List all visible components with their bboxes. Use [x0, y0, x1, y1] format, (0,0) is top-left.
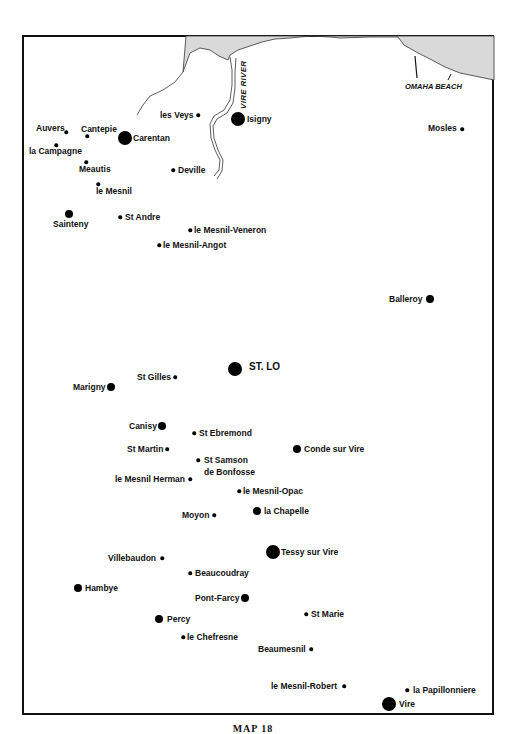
town-label-marigny: Marigny [73, 382, 106, 392]
town-label-st-lo: ST. LO [249, 362, 280, 372]
town-marker-mosles [460, 127, 464, 131]
town-label-de-bonfosse: de Bonfosse [204, 467, 255, 477]
town-label-cantepie: Cantepie [81, 124, 117, 134]
town-marker-balleroy [426, 295, 434, 303]
town-label-le-mesnil-robert: le Mesnil-Robert [271, 681, 337, 691]
town-marker-le-mesnil-herman [188, 477, 192, 481]
sea-area [183, 36, 494, 80]
town-marker-st-gilles [173, 375, 177, 379]
beach-label: OMAHA BEACH [405, 82, 462, 91]
town-marker-villebaudon [160, 556, 164, 560]
town-label-vire: Vire [399, 699, 415, 709]
town-label-st-samson: St Samson [204, 455, 248, 465]
town-label-le-chefresne: le Chefresne [187, 632, 238, 642]
town-label-carentan: Carentan [133, 133, 170, 143]
river-label: VIRE RIVER [239, 61, 248, 109]
town-marker-isigny [231, 112, 245, 126]
town-label-meautis: Meautis [79, 164, 111, 174]
town-marker-st-martin [165, 447, 169, 451]
town-marker-hambye [74, 584, 82, 592]
town-marker-le-mesnil-veneron [188, 228, 192, 232]
town-marker-marigny [107, 383, 115, 391]
town-marker-pont-farcy [241, 594, 249, 602]
omaha-pointer-2 [448, 74, 451, 80]
town-marker-la-chapelle [253, 507, 261, 515]
town-label-tessy-sur-vire: Tessy sur Vire [281, 547, 338, 557]
town-marker-les-veys [196, 113, 200, 117]
town-marker-carentan [118, 131, 132, 145]
town-label-moyon: Moyon [182, 510, 209, 520]
town-marker-tessy-sur-vire [266, 545, 280, 559]
town-label-beaumesnil: Beaumesnil [258, 644, 306, 654]
town-label-beaucoudray: Beaucoudray [195, 568, 249, 578]
town-marker-le-chefresne [181, 635, 185, 639]
town-label-canisy: Canisy [129, 421, 157, 431]
town-label-le-mesnil-herman: le Mesnil Herman [115, 474, 185, 484]
town-marker-st-ebremond [192, 431, 196, 435]
town-label-la-papillonniere: la Papillonniere [413, 685, 476, 695]
town-label-deville: Deville [178, 165, 205, 175]
town-marker-le-mesnil-robert [342, 684, 346, 688]
coastline-west [137, 72, 183, 115]
town-marker-vire [382, 697, 396, 711]
town-marker-la-papillonniere [405, 688, 409, 692]
map-caption: MAP 18 [0, 723, 506, 734]
town-label-le-mesnil-angot: le Mesnil-Angot [163, 240, 226, 250]
town-marker-moyon [212, 513, 216, 517]
town-label-balleroy: Balleroy [389, 294, 423, 304]
town-label-villebaudon: Villebaudon [108, 553, 156, 563]
town-label-le-mesnil-opac: le Mesnil-Opac [243, 486, 303, 496]
town-marker-st-lo [228, 362, 242, 376]
town-marker-le-mesnil-angot [157, 243, 161, 247]
town-marker-beaumesnil [309, 647, 313, 651]
town-label-st-martin: St Martin [127, 444, 163, 454]
town-label-st-andre: St Andre [125, 212, 160, 222]
town-marker-sainteny [65, 210, 73, 218]
town-label-la-campagne: la Campagne [29, 146, 82, 156]
town-label-le-mesnil: le Mesnil [96, 186, 132, 196]
town-marker-beaucoudray [188, 571, 192, 575]
town-marker-deville [171, 168, 175, 172]
town-marker-conde-sur-vire [293, 445, 301, 453]
town-label-st-marie: St Marie [311, 609, 344, 619]
town-marker-st-andre [118, 215, 122, 219]
town-marker-canisy [158, 422, 166, 430]
town-marker-cantepie [85, 134, 89, 138]
town-label-conde-sur-vire: Conde sur Vire [304, 444, 364, 454]
town-marker-st-marie [304, 612, 308, 616]
town-marker-le-mesnil-opac [237, 489, 241, 493]
town-label-hambye: Hambye [85, 583, 118, 593]
town-label-le-mesnil-veneron: le Mesnil-Veneron [194, 225, 266, 235]
town-label-isigny: Isigny [247, 114, 272, 124]
town-label-percy: Percy [167, 614, 190, 624]
town-label-les-veys: les Veys [160, 110, 194, 120]
town-marker-percy [155, 615, 163, 623]
town-label-st-ebremond: St Ebremond [199, 428, 252, 438]
town-label-st-gilles: St Gilles [137, 372, 171, 382]
omaha-pointer-1 [415, 56, 417, 78]
town-label-auvers: Auvers [36, 123, 65, 133]
town-label-pont-farcy: Pont-Farcy [195, 593, 239, 603]
town-marker-st-samson [196, 458, 200, 462]
town-label-la-chapelle: la Chapelle [264, 506, 309, 516]
town-label-mosles: Mosles [428, 123, 457, 133]
town-label-sainteny: Sainteny [53, 219, 88, 229]
